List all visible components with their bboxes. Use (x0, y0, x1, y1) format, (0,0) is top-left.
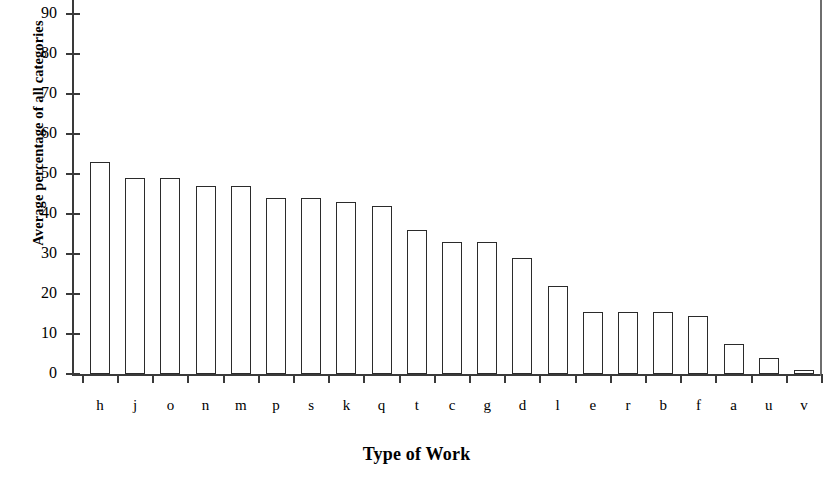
x-axis-title: Type of Work (0, 444, 833, 465)
plot-area: 0102030405060708090 hjonmpskqtcgdlerbfau… (72, 0, 822, 376)
y-axis-tick-label: 80 (23, 43, 57, 62)
bar (512, 258, 532, 374)
y-axis-tick-label: 30 (23, 243, 57, 262)
y-axis-tick: 80 (66, 53, 80, 55)
x-axis-tick-label: k (332, 396, 360, 414)
y-axis-tick: 50 (66, 173, 80, 175)
x-axis-tick (575, 374, 577, 383)
x-axis-tick-label: b (649, 396, 677, 414)
x-axis-tick-label: s (297, 396, 325, 414)
y-axis-tick-label: 50 (23, 163, 57, 182)
x-axis-tick (539, 374, 541, 383)
bar-chart: Average percentage of all categories 010… (0, 0, 833, 479)
y-axis-tick: 60 (66, 133, 80, 135)
x-axis-tick-label: n (192, 396, 220, 414)
x-axis-tick (152, 374, 154, 383)
bar (548, 286, 568, 374)
x-axis-tick (223, 374, 225, 383)
y-axis-line (72, 0, 74, 376)
y-axis-tick-label: 20 (23, 283, 57, 302)
y-axis-tick-label: 70 (23, 83, 57, 102)
x-axis-tick (469, 374, 471, 383)
bar (477, 242, 497, 374)
x-axis-tick-label: c (438, 396, 466, 414)
y-axis-tick-label: 90 (23, 3, 57, 22)
bar (160, 178, 180, 374)
x-axis-tick (786, 374, 788, 383)
x-axis-tick-label: l (544, 396, 572, 414)
x-axis-tick-label: m (227, 396, 255, 414)
x-axis-tick (293, 374, 295, 383)
y-axis-tick: 90 (66, 13, 80, 15)
x-axis-tick-label: f (684, 396, 712, 414)
x-axis-tick (258, 374, 260, 383)
x-axis-tick (82, 374, 84, 383)
bar (231, 186, 251, 374)
x-axis-line (72, 374, 822, 376)
bar (125, 178, 145, 374)
x-axis-tick-label: g (473, 396, 501, 414)
bar (583, 312, 603, 374)
x-axis-tick (504, 374, 506, 383)
x-axis-tick-label: e (579, 396, 607, 414)
x-axis-tick-label: r (614, 396, 642, 414)
y-axis-tick-label: 40 (23, 203, 57, 222)
bar (653, 312, 673, 374)
right-frame-line (820, 0, 822, 376)
bar (336, 202, 356, 374)
x-axis-tick (680, 374, 682, 383)
x-axis-tick (399, 374, 401, 383)
x-axis-tick-label: h (86, 396, 114, 414)
y-axis-tick-label: 0 (23, 363, 57, 382)
y-axis-tick: 30 (66, 253, 80, 255)
bar (301, 198, 321, 374)
x-axis-tick-label: a (720, 396, 748, 414)
x-axis-tick (434, 374, 436, 383)
x-axis-tick (117, 374, 119, 383)
bar (407, 230, 427, 374)
x-axis-tick (610, 374, 612, 383)
x-axis-tick-label: q (368, 396, 396, 414)
y-axis-tick-label: 10 (23, 323, 57, 342)
y-axis-tick: 10 (66, 333, 80, 335)
y-axis-tick: 70 (66, 93, 80, 95)
y-axis-tick: 40 (66, 213, 80, 215)
bar (196, 186, 216, 374)
x-axis-tick-label: v (790, 396, 818, 414)
x-axis-tick-label: d (508, 396, 536, 414)
x-axis-tick-label: j (121, 396, 149, 414)
y-axis-tick-label: 60 (23, 123, 57, 142)
x-axis-tick (645, 374, 647, 383)
x-axis-tick-label: u (755, 396, 783, 414)
bar (266, 198, 286, 374)
x-axis-tick-label: o (156, 396, 184, 414)
bar (618, 312, 638, 374)
x-axis-tick (821, 374, 823, 383)
bar (724, 344, 744, 374)
bar (759, 358, 779, 374)
y-axis-tick: 20 (66, 293, 80, 295)
bar (442, 242, 462, 374)
bar (90, 162, 110, 374)
bar (794, 370, 814, 374)
x-axis-tick-label: t (403, 396, 431, 414)
x-axis-tick (187, 374, 189, 383)
x-axis-tick-label: p (262, 396, 290, 414)
x-axis-tick (751, 374, 753, 383)
x-axis-tick (715, 374, 717, 383)
y-axis-tick: 0 (66, 373, 80, 375)
x-axis-tick (328, 374, 330, 383)
x-axis-tick (363, 374, 365, 383)
bar (688, 316, 708, 374)
bar (372, 206, 392, 374)
